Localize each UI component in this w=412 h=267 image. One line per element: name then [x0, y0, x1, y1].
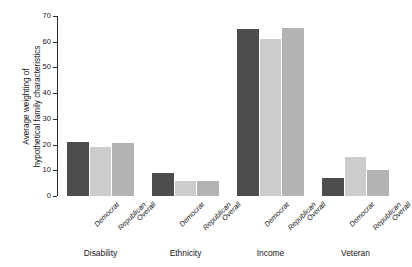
y-tick-label: 70	[34, 12, 51, 20]
bar	[112, 143, 134, 196]
bar	[345, 157, 367, 196]
bar	[67, 142, 89, 196]
y-tick-mark	[53, 42, 57, 43]
bar	[152, 173, 174, 196]
bar	[367, 170, 389, 196]
y-tick-label: 50	[34, 63, 51, 71]
group-label-disability: Disability	[58, 248, 143, 258]
y-tick-mark	[53, 170, 57, 171]
y-tick-label: 10	[34, 166, 51, 174]
bar	[322, 178, 344, 196]
y-tick-mark	[53, 93, 57, 94]
y-tick-label: 20	[34, 141, 51, 149]
group-label-income: Income	[228, 248, 313, 258]
y-axis-title: Average weighting of hypothetical family…	[0, 0, 34, 200]
y-tick-mark	[53, 16, 57, 17]
y-tick-label: 30	[34, 115, 51, 123]
y-tick-mark	[53, 145, 57, 146]
y-tick-label: 60	[34, 38, 51, 46]
group-label-veteran: Veteran	[313, 248, 398, 258]
bar	[197, 181, 219, 196]
group-label-ethnicity: Ethnicity	[143, 248, 228, 258]
plot-area	[58, 16, 398, 196]
y-tick-mark	[53, 67, 57, 68]
y-tick-label: 40	[34, 89, 51, 97]
y-axis-title-text: Average weighting of hypothetical family…	[22, 7, 43, 207]
bar	[175, 181, 197, 196]
y-tick-mark	[53, 196, 57, 197]
y-tick-label: 0	[34, 192, 51, 200]
bar	[90, 147, 112, 196]
bar	[260, 39, 282, 196]
bar	[237, 29, 259, 196]
y-tick-mark	[53, 119, 57, 120]
bar	[282, 28, 304, 196]
